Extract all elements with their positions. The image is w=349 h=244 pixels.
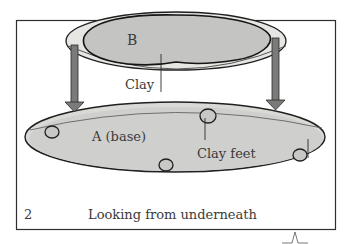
- top-plate-b: [66, 12, 286, 70]
- label-b: B: [127, 33, 137, 47]
- label-clay-feet: Clay feet: [197, 147, 256, 160]
- figure-number: 2: [24, 208, 32, 221]
- figure-caption: Looking from underneath: [88, 208, 257, 221]
- clay-foot: [293, 149, 307, 161]
- clay-foot: [200, 109, 216, 123]
- page-corner-mark: [282, 232, 308, 243]
- figure-diagram: B Clay A (base) Clay feet 2 Looking from…: [0, 0, 349, 244]
- base-plate-a: [25, 102, 325, 172]
- clay-foot: [45, 126, 59, 138]
- clay-blob: [83, 15, 270, 65]
- label-clay: Clay: [125, 78, 154, 91]
- clay-foot: [159, 159, 173, 171]
- label-base-a: A (base): [92, 130, 146, 143]
